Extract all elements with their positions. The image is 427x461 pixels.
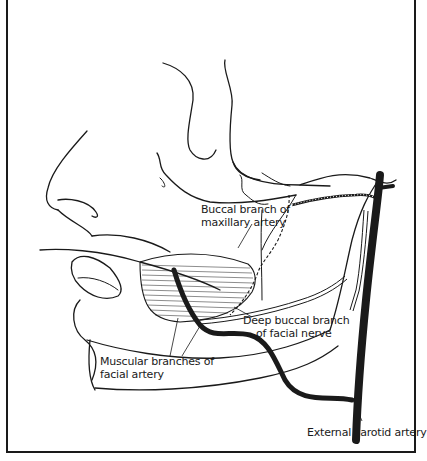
label-buccal-branch-maxillary-artery: Buccal branch of maxillary artery [201,203,290,229]
brow-contour [163,63,216,159]
label-muscular-branches-facial-artery: Muscular branches of facial artery [100,355,214,381]
chin-line [74,300,96,380]
label-deep-buccal-branch-facial-nerve: Deep buccal branch of facial nerve [243,314,349,340]
label-external-carotid-artery: External carotid artery [307,426,427,439]
nose-profile [46,131,87,210]
mouth-upper [40,249,220,290]
orbit-contour [225,60,330,186]
lips [71,256,121,298]
nasolabial-line [92,235,170,252]
maxillary-artery [292,195,376,205]
